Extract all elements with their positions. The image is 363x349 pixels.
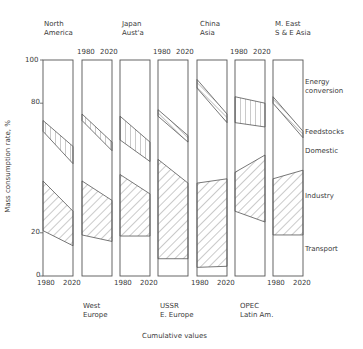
- panel-frame: [82, 60, 112, 276]
- industry-band: [197, 179, 227, 268]
- industry-band: [273, 170, 303, 235]
- panel-frame: [273, 60, 303, 276]
- chart-canvas: [0, 0, 363, 349]
- panel-frame: [120, 60, 150, 276]
